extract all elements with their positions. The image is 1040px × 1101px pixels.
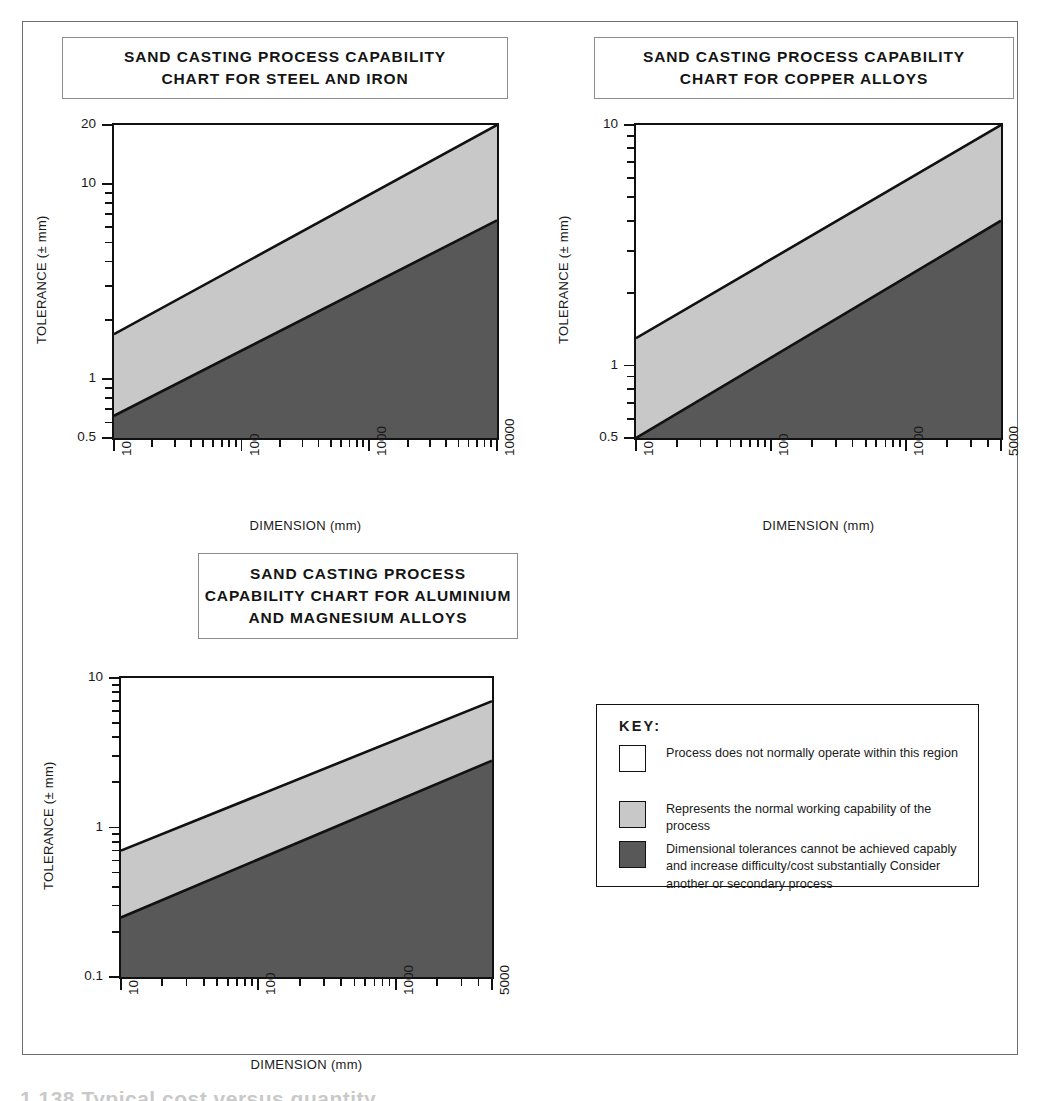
y-axis-title: TOLERANCE (± mm) (556, 215, 571, 344)
x-minor-tick (299, 979, 301, 986)
y-tick-label: 10 (46, 175, 96, 190)
x-major-tick (113, 440, 115, 451)
x-minor-tick (407, 440, 409, 447)
y-minor-tick (112, 905, 119, 907)
x-major-tick (257, 979, 259, 990)
y-tick-label: 0.5 (568, 429, 618, 444)
x-minor-tick (730, 440, 732, 447)
x-minor-tick (221, 440, 223, 447)
x-minor-tick (340, 979, 342, 986)
x-tick-label: 10 (126, 980, 141, 995)
y-minor-tick (105, 422, 112, 424)
y-tick-label: 1 (568, 357, 618, 372)
x-minor-tick (852, 440, 854, 447)
y-tick-label: 0.5 (46, 429, 96, 444)
y-tick-label: 10 (53, 669, 103, 684)
y-minor-tick (627, 196, 634, 198)
chart-title-line: CHART FOR COPPER ALLOYS (680, 68, 928, 90)
chart-title-line: CAPABILITY CHART FOR ALUMINIUM (205, 585, 512, 607)
y-major-tick (102, 378, 112, 380)
y-minor-tick (105, 213, 112, 215)
plot-area-copper-alloys (634, 123, 1003, 440)
x-tick-label: 10 (641, 441, 656, 456)
x-minor-tick (354, 979, 356, 986)
y-minor-tick (112, 736, 119, 738)
y-minor-tick (112, 691, 119, 693)
chart-title-line: CHART FOR STEEL AND IRON (161, 68, 408, 90)
x-minor-tick (161, 979, 163, 986)
x-minor-tick (203, 979, 205, 986)
x-tick-label: 5000 (1006, 426, 1021, 456)
x-major-tick (491, 979, 493, 990)
chart-title-line: SAND CASTING PROCESS (250, 563, 466, 585)
x-minor-tick (186, 979, 188, 986)
x-minor-tick (490, 440, 492, 447)
y-minor-tick (112, 684, 119, 686)
x-major-tick (770, 440, 772, 451)
y-minor-tick (112, 850, 119, 852)
x-minor-tick (323, 979, 325, 986)
x-minor-tick (875, 440, 877, 447)
y-tick-label: 0.1 (53, 968, 103, 983)
y-minor-tick (105, 397, 112, 399)
x-minor-tick (429, 440, 431, 447)
y-minor-tick (105, 261, 112, 263)
x-minor-tick (212, 440, 214, 447)
y-minor-tick (627, 250, 634, 252)
chart-title-box-steel-iron: SAND CASTING PROCESS CAPABILITYCHART FOR… (62, 37, 508, 99)
key-swatch (619, 745, 646, 772)
y-minor-tick (105, 285, 112, 287)
x-minor-tick (235, 440, 237, 447)
y-minor-tick (112, 931, 119, 933)
x-minor-tick (764, 440, 766, 447)
y-minor-tick (105, 202, 112, 204)
y-minor-tick (627, 220, 634, 222)
x-tick-label: 100 (263, 972, 278, 995)
y-minor-tick (627, 177, 634, 179)
x-minor-tick (202, 440, 204, 447)
x-minor-tick (236, 979, 238, 986)
y-major-tick (624, 365, 634, 367)
y-minor-tick (112, 722, 119, 724)
x-minor-tick (445, 440, 447, 447)
x-tick-label: 100 (247, 433, 262, 456)
x-major-tick (635, 440, 637, 451)
x-minor-tick (835, 440, 837, 447)
chart-title-box-copper-alloys: SAND CASTING PROCESS CAPABILITYCHART FOR… (594, 37, 1014, 99)
y-axis-title: TOLERANCE (± mm) (41, 761, 56, 890)
y-minor-tick (627, 147, 634, 149)
x-major-tick (1000, 440, 1002, 451)
y-minor-tick (112, 860, 119, 862)
key-label: Process does not normally operate within… (666, 745, 958, 772)
x-minor-tick (279, 440, 281, 447)
x-minor-tick (749, 440, 751, 447)
plot-area-aluminium-magnesium (119, 676, 494, 979)
x-minor-tick (318, 440, 320, 447)
x-minor-tick (740, 440, 742, 447)
x-tick-label: 5000 (497, 965, 512, 995)
x-tick-label: 100 (776, 433, 791, 456)
y-minor-tick (105, 242, 112, 244)
x-minor-tick (340, 440, 342, 447)
key-row: Dimensional tolerances cannot be achieve… (619, 841, 966, 893)
key-label: Dimensional tolerances cannot be achieve… (666, 841, 966, 893)
y-major-tick (102, 183, 112, 185)
x-minor-tick (892, 440, 894, 447)
y-tick-label: 1 (46, 370, 96, 385)
x-major-tick (241, 440, 243, 451)
chart-title-line: AND MAGNESIUM ALLOYS (249, 607, 468, 629)
y-minor-tick (627, 388, 634, 390)
y-minor-tick (112, 781, 119, 783)
x-axis-title: DIMENSION (mm) (112, 518, 499, 533)
x-major-tick (905, 440, 907, 451)
x-minor-tick (757, 440, 759, 447)
x-minor-tick (228, 440, 230, 447)
x-tick-label: 1000 (911, 426, 926, 456)
y-minor-tick (627, 402, 634, 404)
y-major-tick (624, 437, 634, 439)
key-row: Represents the normal working capability… (619, 801, 966, 836)
y-minor-tick (627, 135, 634, 137)
x-minor-tick (389, 979, 391, 986)
y-tick-label: 20 (46, 116, 96, 131)
y-minor-tick (112, 833, 119, 835)
